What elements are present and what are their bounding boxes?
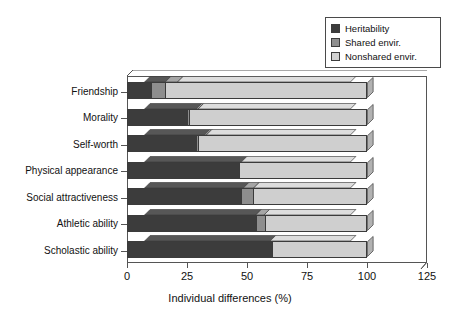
bar-segment-self-worth-nonshared-envir — [199, 136, 366, 151]
chart-figure: Heritability Shared envir. Nonshared env… — [0, 0, 460, 318]
bar-physical-appearance — [127, 162, 367, 179]
x-tick-label-50: 50 — [241, 270, 253, 283]
bar-side-face-morality — [367, 103, 374, 126]
y-axis-label-friendship: Friendship — [71, 86, 118, 98]
bar-side-face-social-attractiveness — [367, 182, 374, 205]
bar-segment-scholastic-ability-nonshared-envir — [273, 242, 366, 257]
x-tick-label-25: 25 — [181, 270, 193, 283]
bar-segment-self-worth-heritability — [128, 136, 197, 151]
plot-box-bottom-edge — [127, 262, 427, 269]
legend-item-nonshared-envir: Nonshared envir. — [331, 50, 435, 63]
bar-series-container — [127, 76, 427, 262]
x-tick-label-75: 75 — [301, 270, 313, 283]
bar-segment-morality-heritability — [128, 110, 188, 125]
bar-segment-physical-appearance-nonshared-envir — [240, 163, 366, 178]
legend-label-nonshared-envir: Nonshared envir. — [345, 51, 417, 62]
bar-athletic-ability — [127, 215, 367, 232]
x-tick-mark-25 — [187, 263, 188, 268]
bar-segment-social-attractiveness-nonshared-envir — [254, 189, 366, 204]
bar-segment-friendship-shared-envir — [152, 83, 166, 98]
x-tick-mark-75 — [307, 263, 308, 268]
y-axis-labels: FriendshipMoralitySelf-worthPhysical app… — [0, 76, 127, 262]
legend-item-heritability: Heritability — [331, 22, 435, 35]
y-axis-label-athletic-ability: Athletic ability — [57, 218, 118, 230]
bar-side-face-athletic-ability — [367, 209, 374, 232]
x-tick-mark-100 — [367, 263, 368, 268]
bar-segment-physical-appearance-heritability — [128, 163, 240, 178]
legend-swatch-heritability — [331, 24, 340, 33]
bar-self-worth — [127, 135, 367, 152]
bar-scholastic-ability — [127, 241, 367, 258]
bar-segment-friendship-nonshared-envir — [166, 83, 366, 98]
bar-side-face-friendship — [367, 76, 374, 99]
legend-item-shared-envir: Shared envir. — [331, 36, 435, 49]
y-axis-label-morality: Morality — [83, 112, 118, 124]
x-axis-line — [127, 262, 427, 263]
legend-label-heritability: Heritability — [345, 23, 389, 34]
bar-side-face-scholastic-ability — [367, 235, 374, 258]
bar-side-face-physical-appearance — [367, 156, 374, 179]
bar-segment-athletic-ability-heritability — [128, 216, 257, 231]
chart-legend: Heritability Shared envir. Nonshared env… — [325, 17, 441, 68]
bar-friendship — [127, 82, 367, 99]
legend-label-shared-envir: Shared envir. — [345, 37, 401, 48]
y-axis-label-scholastic-ability: Scholastic ability — [44, 245, 118, 257]
x-tick-mark-50 — [247, 263, 248, 268]
x-tick-label-125: 125 — [418, 270, 436, 283]
x-tick-label-100: 100 — [358, 270, 376, 283]
bar-segment-morality-nonshared-envir — [190, 110, 366, 125]
legend-swatch-shared-envir — [331, 38, 340, 47]
bar-segment-social-attractiveness-heritability — [128, 189, 242, 204]
bar-morality — [127, 109, 367, 126]
y-axis-label-self-worth: Self-worth — [73, 139, 118, 151]
x-tick-mark-125 — [427, 263, 428, 268]
legend-swatch-nonshared-envir — [331, 52, 340, 61]
bar-social-attractiveness — [127, 188, 367, 205]
bar-segment-friendship-heritability — [128, 83, 152, 98]
bar-segment-scholastic-ability-heritability — [128, 242, 273, 257]
x-tick-label-0: 0 — [124, 270, 130, 283]
bar-side-face-self-worth — [367, 129, 374, 152]
x-axis-title: Individual differences (%) — [0, 292, 460, 304]
y-axis-label-physical-appearance: Physical appearance — [25, 165, 118, 177]
y-axis-label-social-attractiveness: Social attractiveness — [26, 192, 118, 204]
bar-segment-social-attractiveness-shared-envir — [242, 189, 254, 204]
x-tick-mark-0 — [127, 263, 128, 268]
bar-segment-athletic-ability-nonshared-envir — [266, 216, 366, 231]
bar-segment-athletic-ability-shared-envir — [257, 216, 267, 231]
